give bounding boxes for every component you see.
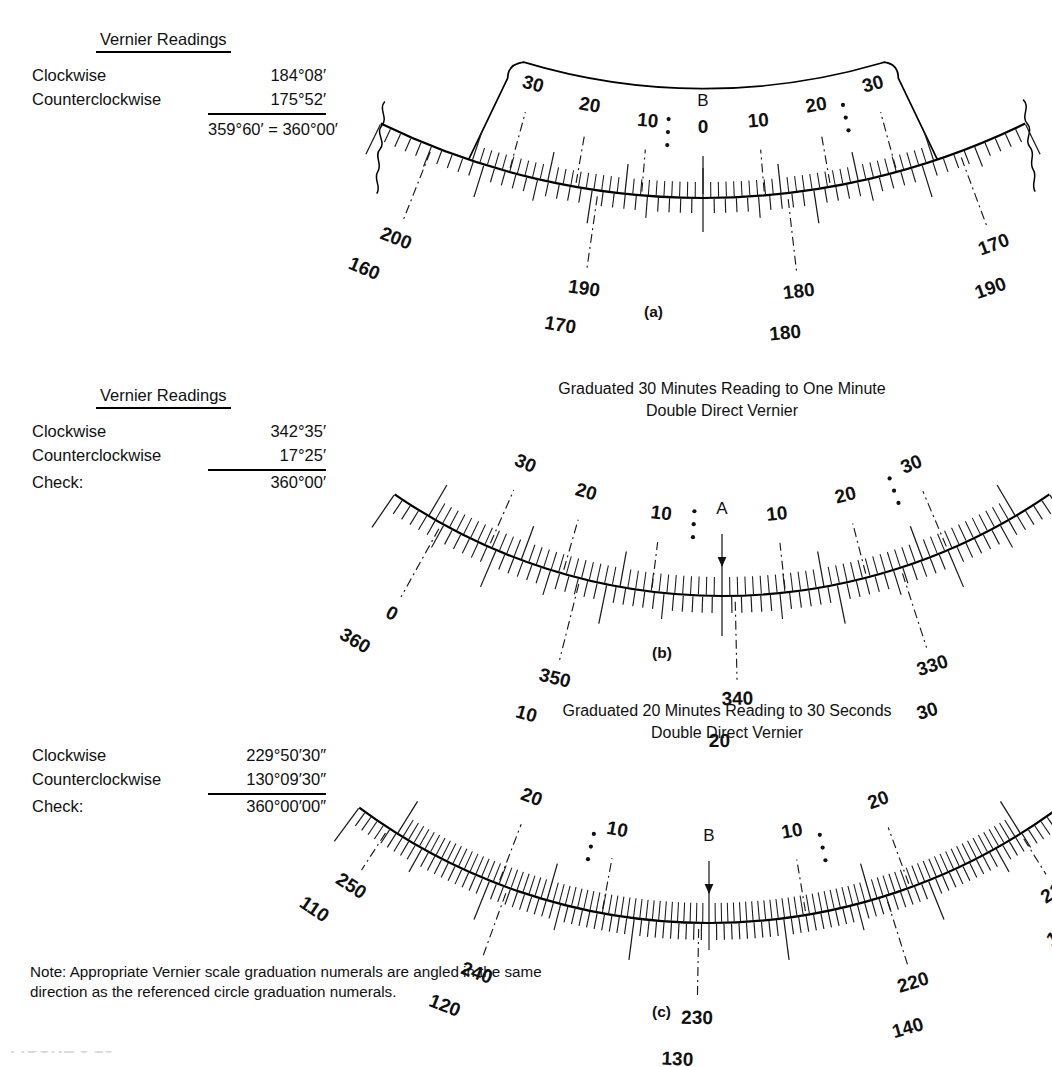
panel-a-readings-table: Vernier Readings Clockwise 184°08′ Count… xyxy=(32,30,338,142)
svg-text:0: 0 xyxy=(382,601,401,624)
svg-text:B: B xyxy=(697,91,708,110)
svg-text:170: 170 xyxy=(543,312,578,338)
svg-text:10: 10 xyxy=(765,502,788,525)
panel-b-reading-row-check: Check: 360°00′ xyxy=(32,471,326,495)
svg-text:250: 250 xyxy=(332,868,370,903)
svg-text:190: 190 xyxy=(567,275,601,300)
panel-c-reading-row-counterclockwise: Counterclockwise 130°09′30″ xyxy=(32,768,326,795)
svg-text:10: 10 xyxy=(605,817,630,842)
panel-b-readings-title: Vernier Readings xyxy=(96,386,231,409)
svg-text:110: 110 xyxy=(296,892,333,927)
panel-b-title-line1: Graduated 30 Minutes Reading to One Minu… xyxy=(558,380,885,397)
panel-a-reading-label: Counterclockwise xyxy=(32,88,208,112)
panel-b-reading-value: 360°00′ xyxy=(208,471,326,495)
svg-text:360: 360 xyxy=(336,623,374,657)
svg-text:30: 30 xyxy=(897,450,925,478)
svg-text:180: 180 xyxy=(782,279,816,304)
svg-text:30: 30 xyxy=(860,71,886,97)
panel-b-readings-table: Vernier Readings Clockwise 342°35′ Count… xyxy=(32,386,326,495)
panel-c-sub-label: (c) xyxy=(652,1003,671,1021)
svg-text:350: 350 xyxy=(537,664,573,692)
panel-c-title-line1: Graduated 20 Minutes Reading to 30 Secon… xyxy=(562,702,891,719)
panel-a-reading-value: 175°52′ xyxy=(208,88,326,115)
svg-text:30: 30 xyxy=(512,449,540,477)
panel-c-reading-label: Clockwise xyxy=(32,744,208,768)
svg-text:10: 10 xyxy=(649,501,673,524)
panel-b-reading-value: 342°35′ xyxy=(208,420,326,444)
figure-note: Note: Appropriate Vernier scale graduati… xyxy=(30,962,550,1002)
panel-c-reading-value: 130°09′30″ xyxy=(208,768,326,795)
panel-b-reading-label: Counterclockwise xyxy=(32,444,208,468)
svg-text:A: A xyxy=(716,499,728,518)
panel-a-reading-row-clockwise: Clockwise 184°08′ xyxy=(32,64,338,88)
figure-caption-text: FIGURE 6-16 xyxy=(10,1051,113,1058)
panel-c-readings-table: Clockwise 229°50′30″ Counterclockwise 13… xyxy=(32,744,326,819)
panel-b-reading-row-counterclockwise: Counterclockwise 17°25′ xyxy=(32,444,326,471)
svg-text:B: B xyxy=(703,826,714,845)
panel-b-reading-value: 17°25′ xyxy=(208,444,326,471)
figure-caption-clipped: FIGURE 6-16 xyxy=(0,1051,1049,1067)
panel-c-reading-value: 229°50′30″ xyxy=(208,744,326,768)
svg-text:200: 200 xyxy=(378,222,415,253)
svg-text:10: 10 xyxy=(636,109,659,132)
panel-b-title: Graduated 30 Minutes Reading to One Minu… xyxy=(512,378,932,421)
svg-text:210: 210 xyxy=(1037,873,1052,908)
panel-b-sub-label: (b) xyxy=(652,644,672,662)
svg-text:230: 230 xyxy=(681,1007,713,1029)
panel-a-readings-title: Vernier Readings xyxy=(96,30,231,53)
svg-text:20: 20 xyxy=(832,482,858,508)
panel-a-sum-value: 359°60′ = 360°00′ xyxy=(208,118,338,142)
panel-a-reading-row-counterclockwise: Counterclockwise 175°52′ xyxy=(32,88,338,115)
svg-text:330: 330 xyxy=(914,650,951,680)
panel-c-reading-row-check: Check: 360°00′00″ xyxy=(32,795,326,819)
panel-c-reading-label: Check: xyxy=(32,795,208,819)
svg-text:220: 220 xyxy=(895,967,932,997)
panel-b-vernier-diagram: 0360350103402033030302010102030A xyxy=(392,418,1052,698)
svg-text:20: 20 xyxy=(578,92,602,116)
svg-text:0: 0 xyxy=(698,116,709,137)
svg-text:10: 10 xyxy=(747,109,770,132)
panel-a-reading-label: Clockwise xyxy=(32,64,208,88)
panel-c-reading-row-clockwise: Clockwise 229°50′30″ xyxy=(32,744,326,768)
panel-a-vernier-diagram: 2001601901701801801701903020100102030B xyxy=(358,18,1048,318)
svg-text:160: 160 xyxy=(346,252,383,284)
panel-a-reading-value: 184°08′ xyxy=(208,64,326,88)
panel-c-vernier-diagram: 25011024012023013022014021015020101020B xyxy=(369,735,1049,995)
svg-text:10: 10 xyxy=(780,819,804,843)
svg-text:190: 190 xyxy=(972,273,1009,303)
panel-a-sub-label: (a) xyxy=(644,303,663,321)
panel-c-reading-label: Counterclockwise xyxy=(32,768,208,792)
svg-text:20: 20 xyxy=(518,783,545,810)
svg-text:170: 170 xyxy=(975,229,1012,260)
svg-text:30: 30 xyxy=(520,71,546,97)
svg-text:150: 150 xyxy=(1043,916,1052,950)
panel-a-reading-row-sum: 359°60′ = 360°00′ xyxy=(32,118,338,142)
svg-text:20: 20 xyxy=(804,92,828,116)
svg-text:180: 180 xyxy=(768,321,802,345)
svg-text:140: 140 xyxy=(889,1013,925,1042)
panel-b-reading-label: Clockwise xyxy=(32,420,208,444)
panel-b-reading-row-clockwise: Clockwise 342°35′ xyxy=(32,420,326,444)
svg-text:20: 20 xyxy=(573,478,599,504)
svg-text:20: 20 xyxy=(865,786,892,813)
panel-c-reading-value: 360°00′00″ xyxy=(208,795,326,819)
panel-b-reading-label: Check: xyxy=(32,471,208,495)
